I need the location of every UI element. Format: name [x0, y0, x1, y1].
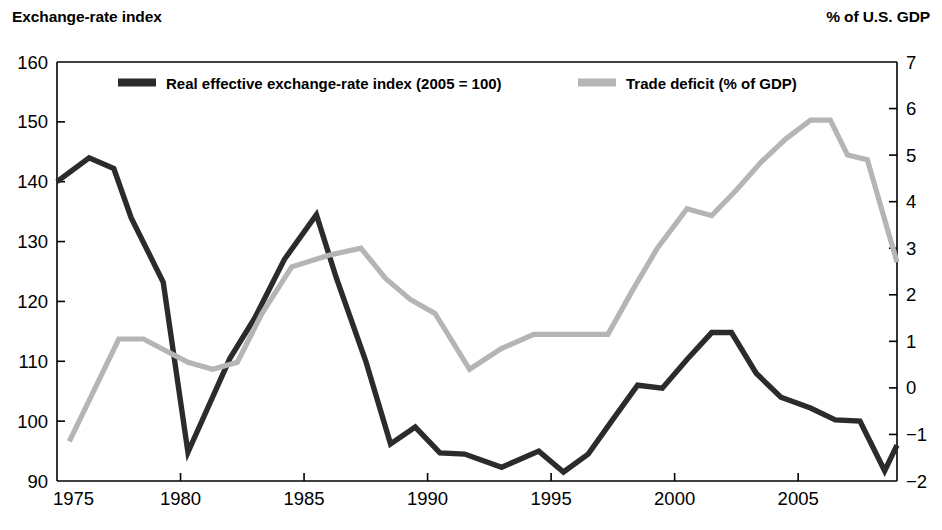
- x-axis: 1975198019851990199520002005: [53, 473, 819, 509]
- left-tick-label: 150: [17, 111, 48, 132]
- left-tick-label: 130: [17, 231, 48, 252]
- legend-swatch-trade-deficit: [578, 79, 616, 87]
- chart-plot-area: 90100110120130140150160 −2−101234567 197…: [0, 0, 942, 530]
- right-tick-label: −1: [906, 424, 927, 445]
- right-tick-label: −2: [906, 471, 927, 492]
- x-tick-label: 1985: [283, 488, 324, 509]
- x-tick-label: 1990: [407, 488, 448, 509]
- left-tick-label: 90: [27, 471, 48, 492]
- legend-label-exchange-rate-index: Real effective exchange-rate index (2005…: [166, 75, 502, 92]
- x-tick-label: 1995: [531, 488, 572, 509]
- right-tick-label: 3: [906, 238, 916, 259]
- series-line-trade-deficit: [69, 120, 897, 441]
- series-line-exchange-rate-index: [57, 158, 897, 472]
- left-tick-label: 140: [17, 171, 48, 192]
- x-tick-label: 1980: [160, 488, 201, 509]
- right-y-axis: −2−101234567: [889, 52, 927, 492]
- x-tick-label: 2005: [778, 488, 819, 509]
- x-tick-label: 2000: [654, 488, 695, 509]
- left-tick-label: 110: [19, 351, 49, 372]
- left-tick-label: 160: [17, 52, 48, 73]
- right-tick-label: 0: [906, 377, 916, 398]
- left-tick-label: 100: [17, 411, 48, 432]
- x-tick-label: 1975: [53, 488, 94, 509]
- legend-swatch-exchange-rate-index: [118, 79, 156, 87]
- right-tick-label: 2: [906, 284, 916, 305]
- chart-legend: Real effective exchange-rate index (2005…: [118, 75, 797, 92]
- legend-label-trade-deficit: Trade deficit (% of GDP): [626, 75, 797, 92]
- series-layer: [57, 120, 897, 472]
- left-tick-label: 120: [17, 291, 48, 312]
- chart-page: Exchange-rate index % of U.S. GDP 901001…: [0, 0, 942, 530]
- right-tick-label: 4: [906, 191, 916, 212]
- right-tick-label: 5: [906, 145, 916, 166]
- right-tick-label: 7: [906, 52, 916, 73]
- right-tick-label: 6: [906, 98, 916, 119]
- left-y-axis: 90100110120130140150160: [17, 52, 65, 492]
- dual-axis-line-chart: 90100110120130140150160 −2−101234567 197…: [0, 0, 942, 530]
- right-tick-label: 1: [906, 331, 916, 352]
